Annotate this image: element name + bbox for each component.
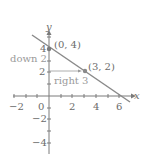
x-axis-label: x — [134, 90, 140, 101]
point-3-2 — [83, 69, 87, 73]
x-tick-neg2: −2 — [9, 101, 24, 112]
x-tick-4: 4 — [93, 101, 99, 112]
point-label-3-2: (3, 2) — [88, 61, 115, 72]
down-annotation: down 2 — [10, 53, 47, 64]
right-arrowhead-icon — [78, 70, 82, 73]
right-annotation: right 3 — [54, 75, 88, 86]
y-tick-neg4: −4 — [32, 137, 47, 148]
y-tick-neg2: −2 — [32, 113, 47, 124]
y-tick-2: 2 — [39, 66, 45, 77]
point-0-4 — [47, 47, 51, 51]
point-label-0-4: (0, 4) — [54, 39, 81, 50]
y-tick-4: 4 — [40, 43, 46, 54]
x-tick-6: 6 — [116, 101, 122, 112]
data-line — [32, 35, 130, 102]
y-axis-label: y — [45, 21, 52, 32]
line-graph: y x (0, 4) (3, 2) down 2 right 3 4 2 −2 … — [0, 0, 146, 163]
x-tick-2: 2 — [69, 101, 75, 112]
x-tick-0: 0 — [38, 101, 44, 112]
